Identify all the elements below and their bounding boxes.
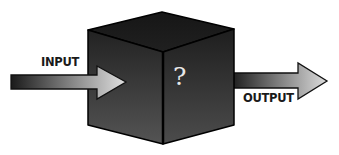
input-label: INPUT — [41, 55, 79, 69]
question-mark: ? — [173, 64, 186, 89]
black-box-diagram — [0, 0, 339, 155]
output-label: OUTPUT — [243, 91, 294, 105]
